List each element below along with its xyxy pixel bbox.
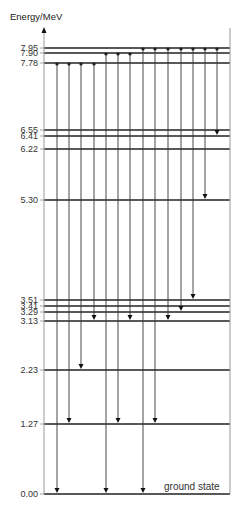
- energy-label: 6.41: [20, 131, 38, 141]
- arrowhead-icon: [166, 315, 171, 320]
- energy-level-diagram: Energy/MeV 7.957.907.786.556.416.225.303…: [0, 0, 242, 511]
- energy-label: 2.23: [20, 365, 38, 375]
- energy-label: 3.13: [20, 316, 38, 326]
- arrowhead-icon: [191, 294, 196, 299]
- ground-state-label: ground state: [164, 481, 220, 492]
- arrowhead-icon: [203, 194, 208, 199]
- arrowhead-icon: [67, 418, 72, 423]
- arrowhead-icon: [55, 488, 60, 493]
- energy-label: 0.00: [20, 489, 38, 499]
- arrowhead-icon: [141, 488, 146, 493]
- arrowhead-icon: [92, 315, 97, 320]
- arrowhead-icon: [128, 315, 133, 320]
- energy-levels: 7.957.907.786.556.416.225.303.513.413.29…: [20, 43, 230, 499]
- arrowhead-icon: [104, 488, 109, 493]
- transitions: [55, 47, 220, 493]
- arrowhead-icon: [153, 418, 158, 423]
- arrowhead-icon: [179, 306, 184, 311]
- energy-label: 1.27: [20, 419, 38, 429]
- axis-arrow-icon: [42, 27, 47, 33]
- energy-label: 7.78: [20, 58, 38, 68]
- energy-label: 6.22: [20, 144, 38, 154]
- energy-label: 5.30: [20, 195, 38, 205]
- energy-label: 7.90: [20, 48, 38, 58]
- arrowhead-icon: [79, 364, 84, 369]
- arrowhead-icon: [215, 130, 220, 135]
- arrowhead-icon: [116, 418, 121, 423]
- axis-title: Energy/MeV: [10, 11, 63, 22]
